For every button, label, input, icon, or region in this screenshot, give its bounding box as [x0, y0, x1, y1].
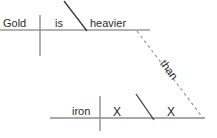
sentence-diagram: Gold is heavier iron X X than [0, 0, 217, 138]
label-subject-gold: Gold [3, 17, 26, 29]
label-verb-is: is [55, 17, 63, 29]
diagram-canvas: Gold is heavier iron X X than [0, 0, 217, 138]
label-complement-heavier: heavier [90, 17, 126, 29]
predicate-adjective-slant [64, 1, 87, 31]
label-slot-two-x: X [167, 105, 175, 119]
subordinate-complement-slant [136, 94, 154, 120]
label-subject-iron: iron [72, 105, 90, 117]
label-conjunction-than: than [158, 57, 180, 81]
label-slot-one-x: X [113, 105, 121, 119]
